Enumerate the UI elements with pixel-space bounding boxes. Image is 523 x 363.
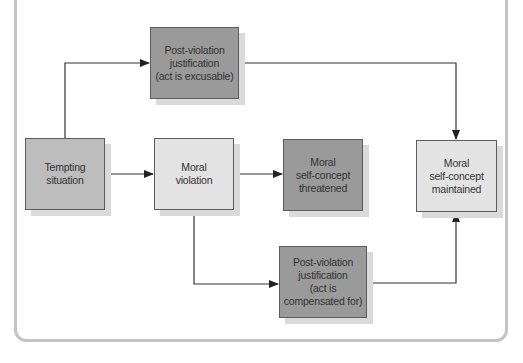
node-label: Moral self-concept threatened (296, 156, 350, 195)
node-moral-violation: Moral violation (154, 138, 234, 210)
node-justification-excusable: Post-violation justification (act is exc… (150, 27, 239, 99)
node-label: Moral violation (176, 161, 213, 187)
node-self-concept-maintained: Moral self-concept maintained (416, 140, 497, 212)
node-self-concept-threatened: Moral self-concept threatened (283, 139, 363, 211)
node-label: Post-violation justification (act is com… (284, 256, 363, 308)
node-label: Tempting situation (44, 161, 85, 187)
edge-tempting-to-excusable (65, 63, 149, 138)
node-justification-compensated: Post-violation justification (act is com… (279, 246, 367, 318)
edge-compensated-to-maintained (367, 213, 456, 283)
node-label: Moral self-concept maintained (429, 157, 483, 196)
node-tempting-situation: Tempting situation (25, 138, 105, 210)
edge-excusable-to-maintained (239, 63, 456, 139)
edge-violation-to-compensated (194, 210, 278, 284)
node-label: Post-violation justification (act is exc… (155, 44, 233, 83)
